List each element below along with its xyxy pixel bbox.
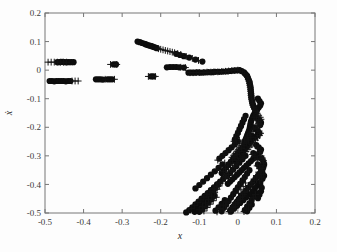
y-tick-label: 0.1	[30, 37, 41, 47]
scatter-plot: -0.5-0.4-0.3-0.2-0.100.10.2-0.5-0.4-0.3-…	[0, 0, 337, 252]
data-point-dot	[216, 156, 222, 162]
data-point-dot	[257, 179, 263, 185]
x-tick-label: 0	[236, 217, 241, 227]
x-tick-label: 0.1	[271, 217, 282, 227]
data-point-plus	[75, 78, 82, 85]
y-tick-label: -0.2	[27, 122, 41, 132]
axes-layer	[45, 13, 315, 213]
y-tick-label: -0.4	[27, 180, 42, 190]
data-point-dot	[199, 58, 205, 64]
y-tick-label: -0.3	[27, 151, 42, 161]
x-tick-label: -0.2	[154, 217, 168, 227]
plot-frame	[45, 13, 315, 213]
figure-container: -0.5-0.4-0.3-0.2-0.100.10.2-0.5-0.4-0.3-…	[0, 0, 337, 252]
x-tick-label: 0.2	[309, 217, 320, 227]
y-axis-title: ẋ	[3, 110, 14, 116]
x-tick-label: -0.5	[38, 217, 53, 227]
x-tick-label: -0.1	[192, 217, 206, 227]
y-tick-label: 0.2	[30, 8, 41, 18]
x-tick-label: -0.3	[115, 217, 130, 227]
data-point-dot	[154, 45, 160, 51]
data-point-dot	[70, 59, 76, 65]
data-point-dot	[186, 54, 192, 60]
x-axis-title: x	[177, 230, 183, 241]
x-tick-label: -0.4	[76, 217, 91, 227]
y-tick-label: -0.1	[27, 94, 41, 104]
axis-labels-layer: -0.5-0.4-0.3-0.2-0.100.10.2-0.5-0.4-0.3-…	[3, 8, 321, 241]
data-points-layer	[45, 38, 268, 215]
data-point-dot	[192, 56, 198, 62]
y-tick-label: 0	[37, 65, 42, 75]
data-point-dot	[219, 170, 225, 176]
y-tick-label: -0.5	[27, 208, 42, 218]
